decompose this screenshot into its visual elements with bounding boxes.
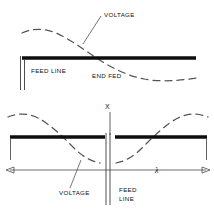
bottom-panel-center-fed: X λ bbox=[6, 103, 210, 205]
wavelength-label: λ bbox=[154, 166, 159, 175]
bottom-feed-line-label-line2: LINE bbox=[119, 195, 134, 202]
bottom-voltage-leader bbox=[70, 160, 81, 188]
end-fed-label: END FED bbox=[92, 72, 122, 79]
x-axis-label: X bbox=[105, 103, 110, 110]
bottom-voltage-label: VOLTAGE bbox=[59, 189, 90, 196]
bottom-feed-line-label-line1: FEED bbox=[119, 186, 137, 193]
top-panel-end-fed: VOLTAGE FEED LINE END FED bbox=[21, 11, 197, 90]
top-voltage-label: VOLTAGE bbox=[104, 11, 135, 18]
top-voltage-leader bbox=[83, 16, 101, 44]
top-feed-line-label: FEED LINE bbox=[31, 67, 66, 74]
antenna-voltage-diagram: VOLTAGE FEED LINE END FED X bbox=[0, 0, 214, 215]
wavelength-dimension bbox=[6, 167, 210, 173]
bottom-feed-line-conductors bbox=[106, 133, 110, 205]
top-feed-line-conductors bbox=[21, 56, 25, 90]
